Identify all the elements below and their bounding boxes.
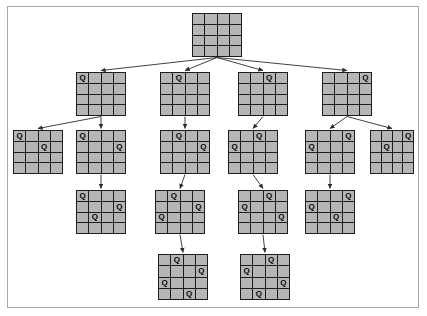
queen-glyph: Q xyxy=(80,192,86,200)
board-node[interactable]: QQ xyxy=(160,130,210,174)
board-node[interactable]: QQQ xyxy=(155,190,205,234)
board-cell xyxy=(186,142,197,152)
board-cell xyxy=(205,25,216,35)
board-cell xyxy=(241,278,252,288)
board-node[interactable]: Q xyxy=(238,72,288,116)
board-cell: Q xyxy=(254,131,265,141)
board-cell xyxy=(114,84,125,94)
queen-glyph: Q xyxy=(41,143,47,151)
board-cell xyxy=(39,131,50,141)
queen-glyph: Q xyxy=(278,213,284,221)
board-cell xyxy=(229,163,240,173)
board-cell xyxy=(382,163,392,173)
board-node[interactable] xyxy=(192,13,242,57)
board-node[interactable]: Q xyxy=(322,72,372,116)
board-cell: Q xyxy=(276,213,287,223)
board-node[interactable]: QQ xyxy=(228,130,278,174)
board-cell: Q xyxy=(241,266,252,276)
board-cell xyxy=(251,191,262,201)
board-node[interactable]: QQ xyxy=(76,130,126,174)
board-cell xyxy=(230,14,241,24)
board-cell xyxy=(343,213,354,223)
board-cell xyxy=(89,73,100,83)
board-cell xyxy=(198,153,209,163)
board-cell xyxy=(181,191,192,201)
board-cell xyxy=(196,289,207,299)
board-cell xyxy=(331,131,342,141)
queen-glyph: Q xyxy=(195,203,201,211)
board-cell xyxy=(102,213,113,223)
board-cell xyxy=(241,142,252,152)
queen-glyph: Q xyxy=(280,279,286,287)
board-cell xyxy=(318,213,329,223)
board-cell xyxy=(114,223,125,233)
board-node[interactable]: QQQQ xyxy=(240,254,290,300)
board-cell xyxy=(331,202,342,212)
board-cell: Q xyxy=(171,255,182,265)
board-cell: Q xyxy=(196,266,207,276)
board-node[interactable]: QQQ xyxy=(76,190,126,234)
board-cell xyxy=(229,131,240,141)
board-cell xyxy=(181,223,192,233)
board-cell xyxy=(335,105,346,115)
board-cell xyxy=(251,213,262,223)
board-cell xyxy=(331,191,342,201)
board-node[interactable]: Q xyxy=(160,72,210,116)
board-node[interactable]: Q xyxy=(76,72,126,116)
board-cell: Q xyxy=(173,131,184,141)
board-cell xyxy=(168,213,179,223)
board-cell xyxy=(306,153,317,163)
board-cell xyxy=(161,142,172,152)
board-cell xyxy=(77,95,88,105)
board-cell xyxy=(51,153,62,163)
board-node[interactable]: QQ xyxy=(305,130,355,174)
board-cell xyxy=(251,105,262,115)
board-cell xyxy=(276,223,287,233)
board-cell xyxy=(102,163,113,173)
board-node[interactable]: QQ xyxy=(370,130,414,174)
board-cell xyxy=(171,278,182,288)
board-cell xyxy=(266,131,277,141)
board-cell xyxy=(343,153,354,163)
board-cell xyxy=(241,153,252,163)
board-cell xyxy=(193,191,204,201)
board-cell: Q xyxy=(253,289,264,299)
board-cell xyxy=(159,266,170,276)
queen-glyph: Q xyxy=(198,267,204,275)
board-cell: Q xyxy=(159,278,170,288)
board-cell xyxy=(77,105,88,115)
queen-glyph: Q xyxy=(268,256,274,264)
board-cell xyxy=(382,131,392,141)
board-cell xyxy=(184,255,195,265)
board-node[interactable]: QQ xyxy=(13,130,63,174)
board-cell xyxy=(114,131,125,141)
board-cell xyxy=(276,105,287,115)
board-cell xyxy=(77,142,88,152)
board-cell xyxy=(266,142,277,152)
queen-glyph: Q xyxy=(80,74,86,82)
queen-glyph: Q xyxy=(162,279,168,287)
board-cell xyxy=(218,14,229,24)
board-node[interactable]: QQQ xyxy=(238,190,288,234)
board-cell xyxy=(102,202,113,212)
board-cell: Q xyxy=(14,131,25,141)
board-node[interactable]: QQQQ xyxy=(158,254,208,300)
board-cell xyxy=(205,36,216,46)
board-cell: Q xyxy=(39,142,50,152)
diagram-canvas: QQQQQQQQQQQQQQQQQQQQQQQQQQQQQQQQQQQQ xyxy=(0,0,427,316)
board-cell xyxy=(173,84,184,94)
queen-glyph: Q xyxy=(200,143,206,151)
board-node[interactable]: QQQ xyxy=(305,190,355,234)
board-cell xyxy=(51,163,62,173)
board-cell xyxy=(186,131,197,141)
board-cell xyxy=(331,163,342,173)
board-cell: Q xyxy=(168,191,179,201)
board-cell xyxy=(253,278,264,288)
queen-glyph: Q xyxy=(80,132,86,140)
board-cell xyxy=(181,213,192,223)
board-cell xyxy=(403,153,413,163)
board-cell xyxy=(343,202,354,212)
board-cell xyxy=(102,73,113,83)
board-cell xyxy=(360,84,371,94)
board-cell xyxy=(168,223,179,233)
